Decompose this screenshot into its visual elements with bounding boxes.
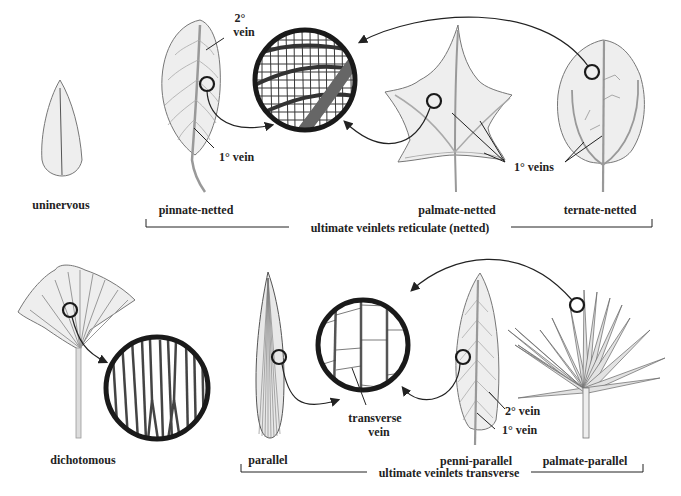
label-palmate-parallel: palmate-parallel [543, 455, 628, 467]
venation-diagram [0, 0, 681, 496]
uninervous-leaf [42, 80, 82, 176]
label-ternate-netted: ternate-netted [564, 204, 637, 216]
label-uninervous: uninervous [32, 199, 89, 211]
label-transverse-group: ultimate veinlets transverse [379, 467, 520, 479]
annotation-1st-vein-pinnate: 1° vein [219, 151, 254, 163]
transverse-magnified-circle [318, 295, 410, 405]
label-parallel: parallel [248, 454, 287, 466]
label-palmate-netted: palmate-netted [418, 204, 495, 216]
pinnate-netted-leaf [162, 20, 272, 192]
palmate-netted-leaf [345, 25, 512, 192]
annotation-1st-vein-penni: 1° vein [502, 424, 537, 436]
reticulate-magnified-circle [250, 30, 360, 135]
annotation-transverse-line1: transverse [348, 412, 401, 424]
annotation-1st-veins: 1° veins [514, 161, 554, 173]
label-reticulate-group: ultimate veinlets reticulate (netted) [311, 222, 490, 234]
label-dichotomous: dichotomous [50, 454, 115, 466]
label-pinnate-netted: pinnate-netted [159, 204, 234, 216]
annotation-2nd-vein-line2: vein [233, 26, 254, 38]
annotation-2nd-vein-line1: 2° [235, 12, 246, 24]
annotation-transverse-line2: vein [368, 426, 389, 438]
penni-parallel-leaf [403, 273, 505, 445]
dichotomous-magnified-circle [106, 337, 208, 440]
annotation-2nd-vein-penni: 2° vein [505, 405, 540, 417]
